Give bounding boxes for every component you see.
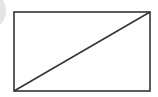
diagram-figure: [0, 0, 158, 97]
diagonal-line: [14, 12, 150, 91]
